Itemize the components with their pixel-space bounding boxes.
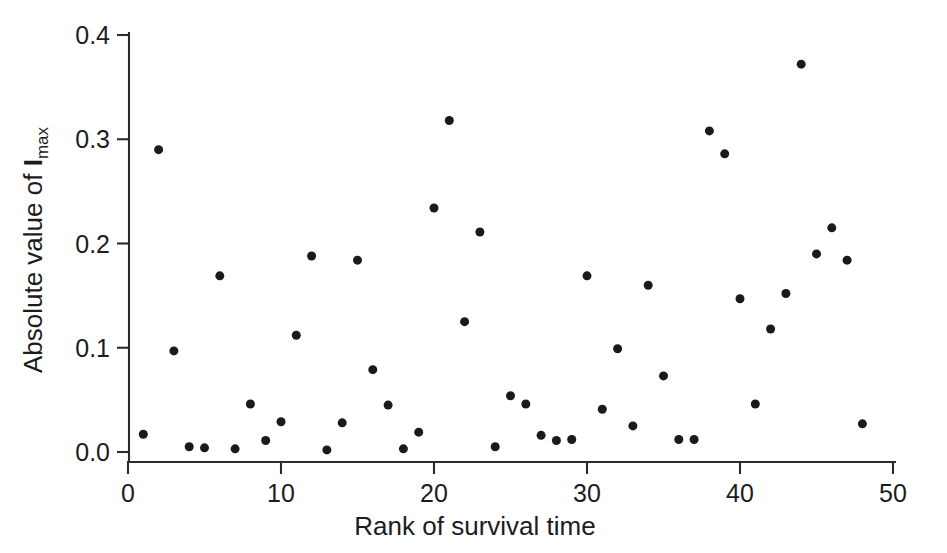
data-point bbox=[720, 149, 729, 158]
y-tick-label: 0.1 bbox=[75, 334, 110, 362]
x-axis-ticks bbox=[128, 462, 893, 474]
data-point bbox=[292, 331, 301, 340]
data-point bbox=[307, 252, 316, 261]
data-point bbox=[185, 442, 194, 451]
data-point bbox=[613, 344, 622, 353]
data-point bbox=[169, 346, 178, 355]
data-point bbox=[644, 281, 653, 290]
y-axis-title: Absolute value of Imax bbox=[18, 126, 52, 373]
x-tick-label: 10 bbox=[267, 479, 295, 507]
data-point bbox=[659, 371, 668, 380]
data-point bbox=[414, 428, 423, 437]
data-point bbox=[384, 401, 393, 410]
data-point bbox=[521, 400, 530, 409]
data-point bbox=[766, 324, 775, 333]
data-point bbox=[231, 444, 240, 453]
data-point bbox=[751, 400, 760, 409]
data-point bbox=[598, 405, 607, 414]
data-point bbox=[277, 417, 286, 426]
x-tick-label: 50 bbox=[879, 479, 907, 507]
data-point bbox=[506, 391, 515, 400]
data-point bbox=[552, 436, 561, 445]
data-point bbox=[583, 271, 592, 280]
y-tick-label: 0.4 bbox=[75, 21, 110, 49]
data-point bbox=[139, 430, 148, 439]
plot-canvas: 0.00.10.20.30.4 01020304050 Rank of surv… bbox=[0, 0, 947, 553]
y-axis-tick-labels: 0.00.10.20.30.4 bbox=[75, 21, 110, 466]
data-point bbox=[368, 365, 377, 374]
data-point bbox=[491, 442, 500, 451]
data-point bbox=[705, 126, 714, 135]
data-point bbox=[781, 289, 790, 298]
x-tick-label: 30 bbox=[573, 479, 601, 507]
data-point bbox=[843, 256, 852, 265]
data-point bbox=[154, 145, 163, 154]
data-point bbox=[628, 421, 637, 430]
y-axis-title-group: Absolute value of Imax bbox=[18, 126, 52, 373]
y-tick-label: 0.0 bbox=[75, 438, 110, 466]
data-point bbox=[460, 317, 469, 326]
scatter-chart-figure: 0.00.10.20.30.4 01020304050 Rank of surv… bbox=[0, 0, 947, 553]
data-point bbox=[537, 431, 546, 440]
x-axis-tick-labels: 01020304050 bbox=[121, 479, 907, 507]
data-point bbox=[567, 435, 576, 444]
y-axis-title-variable: I bbox=[18, 159, 48, 166]
data-point bbox=[261, 436, 270, 445]
data-point bbox=[674, 435, 683, 444]
data-point bbox=[858, 419, 867, 428]
data-point bbox=[399, 444, 408, 453]
x-axis-title: Rank of survival time bbox=[354, 511, 595, 541]
y-tick-label: 0.2 bbox=[75, 230, 110, 258]
y-axis-title-subscript: max bbox=[33, 126, 52, 159]
data-point bbox=[246, 400, 255, 409]
data-point bbox=[475, 228, 484, 237]
y-axis-ticks bbox=[117, 35, 129, 452]
data-point bbox=[338, 418, 347, 427]
x-tick-label: 20 bbox=[420, 479, 448, 507]
y-tick-label: 0.3 bbox=[75, 125, 110, 153]
data-points-group bbox=[139, 60, 867, 455]
data-point bbox=[322, 445, 331, 454]
x-tick-label: 40 bbox=[726, 479, 754, 507]
data-point bbox=[736, 294, 745, 303]
y-axis-title-prefix: Absolute value of bbox=[18, 166, 48, 373]
data-point bbox=[200, 443, 209, 452]
data-point bbox=[827, 223, 836, 232]
data-point bbox=[215, 271, 224, 280]
data-point bbox=[690, 435, 699, 444]
x-tick-label: 0 bbox=[121, 479, 135, 507]
data-point bbox=[797, 60, 806, 69]
data-point bbox=[812, 249, 821, 258]
data-point bbox=[353, 256, 362, 265]
data-point bbox=[445, 116, 454, 125]
data-point bbox=[430, 204, 439, 213]
